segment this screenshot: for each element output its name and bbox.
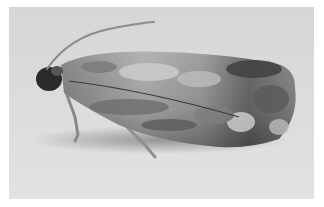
moth-photo — [9, 7, 314, 199]
moth-illustration — [9, 7, 314, 199]
moth-thorax — [51, 66, 63, 76]
